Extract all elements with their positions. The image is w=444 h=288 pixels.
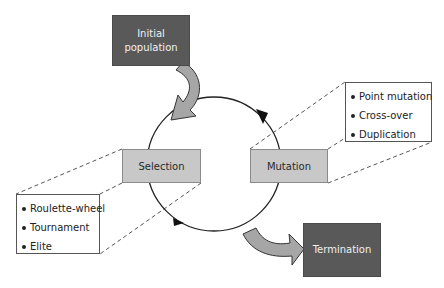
cycle-to-termination-arrow	[243, 228, 304, 265]
mutation-methods-list: Point mutation Cross-over Duplication	[345, 82, 432, 142]
list-item: Elite	[22, 237, 95, 256]
list-item: Point mutation	[351, 87, 427, 106]
selection-label: Selection	[138, 161, 184, 172]
mutation-box: Mutation	[250, 149, 328, 183]
selection-box: Selection	[122, 149, 201, 183]
initial-population-box: Initial population	[112, 15, 190, 66]
list-item: Tournament	[22, 218, 95, 237]
initial-population-label: Initial population	[121, 27, 181, 55]
bullet-icon	[22, 207, 26, 211]
bullet-icon	[22, 245, 26, 249]
cycle-arrowhead-bottom	[173, 218, 184, 226]
selection-methods-list: Roulette-wheel Tournament Elite	[16, 194, 100, 254]
mutation-label: Mutation	[267, 161, 311, 172]
termination-label: Termination	[313, 243, 372, 257]
bullet-icon	[351, 114, 355, 118]
list-item: Cross-over	[351, 106, 427, 125]
bullet-icon	[351, 133, 355, 137]
list-item: Roulette-wheel	[22, 199, 95, 218]
initial-to-cycle-arrow	[171, 62, 200, 120]
bullet-icon	[22, 226, 26, 230]
list-item: Duplication	[351, 125, 427, 144]
bullet-icon	[351, 95, 355, 99]
termination-box: Termination	[303, 223, 381, 277]
